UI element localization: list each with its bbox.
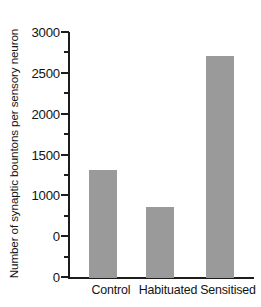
y-tick-minor [64,174,69,176]
y-tick-major [61,113,69,115]
y-axis-line [68,32,70,279]
x-category-label: Sensitised [200,283,256,297]
y-tick-label: 0 [53,270,60,285]
y-tick-label: 2000 [31,106,60,121]
x-category-label: Habituated [139,283,197,297]
y-tick-label: 2500 [31,65,60,80]
plot-area: 3000250020001500100000 [68,24,254,280]
y-tick-major [61,235,69,237]
y-tick-major [61,31,69,33]
y-tick-minor [64,51,69,53]
y-tick-major [61,154,69,156]
bar-habituated [146,207,174,278]
y-tick-label: 1000 [31,188,60,203]
y-tick-label: 0 [53,229,60,244]
y-tick-minor [64,133,69,135]
y-tick-label: 3000 [31,25,60,40]
y-tick-label: 1500 [31,147,60,162]
x-category-label: Control [92,283,131,297]
bar-chart-figure: Number of synaptic bountons per sensory … [0,0,261,307]
bar-sensitised [206,56,234,278]
y-tick-major [61,276,69,278]
y-tick-minor [64,256,69,258]
y-tick-minor [64,215,69,217]
bar-control [89,170,117,278]
y-tick-major [61,194,69,196]
x-axis-category-labels: ControlHabituatedSensitised [60,283,260,303]
y-tick-major [61,72,69,74]
y-tick-minor [64,92,69,94]
y-axis-title: Number of synaptic bountons per sensory … [0,0,26,307]
